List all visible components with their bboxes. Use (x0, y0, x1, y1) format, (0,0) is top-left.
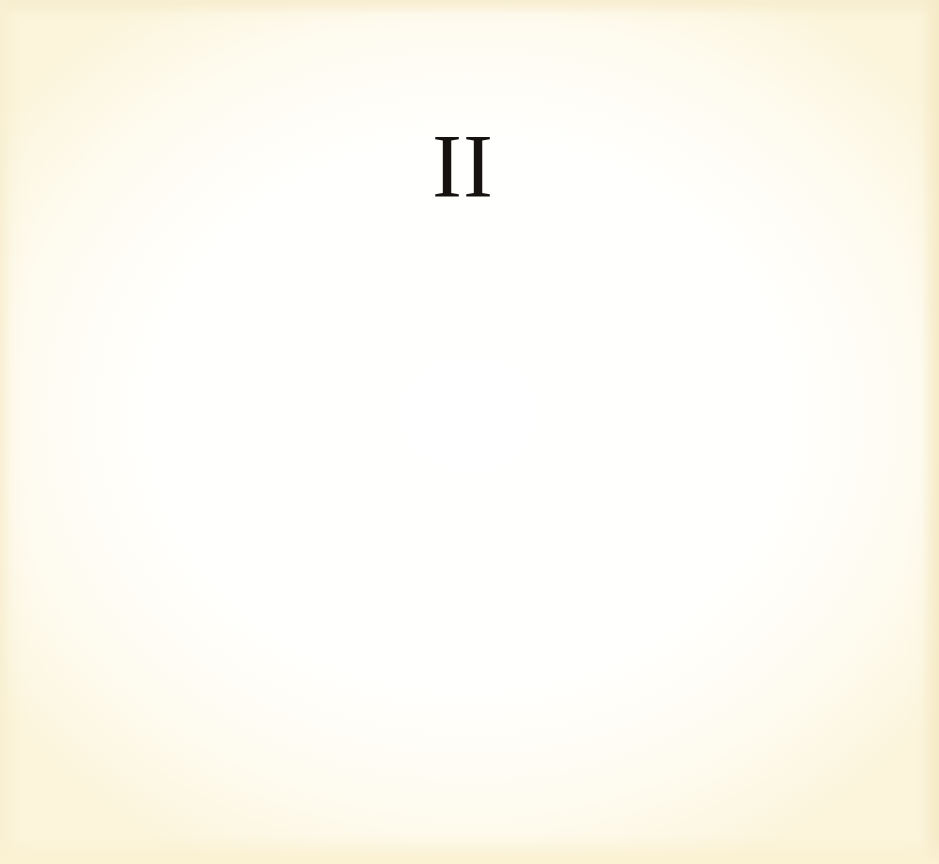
page-top-edge-shading (0, 0, 939, 14)
book-page: II (0, 0, 939, 864)
chapter-number-heading: II (0, 122, 926, 212)
page-bottom-edge-shading (0, 836, 939, 864)
